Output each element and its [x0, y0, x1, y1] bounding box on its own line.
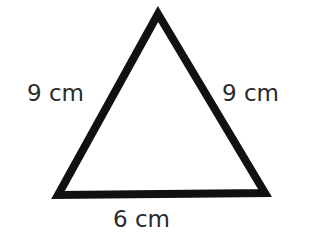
- left-side-label: 9 cm: [27, 82, 84, 105]
- bottom-side-label: 6 cm: [113, 208, 170, 231]
- triangle-shape: [0, 0, 316, 240]
- right-side-label: 9 cm: [222, 82, 279, 105]
- triangle-diagram: 9 cm 9 cm 6 cm: [0, 0, 316, 240]
